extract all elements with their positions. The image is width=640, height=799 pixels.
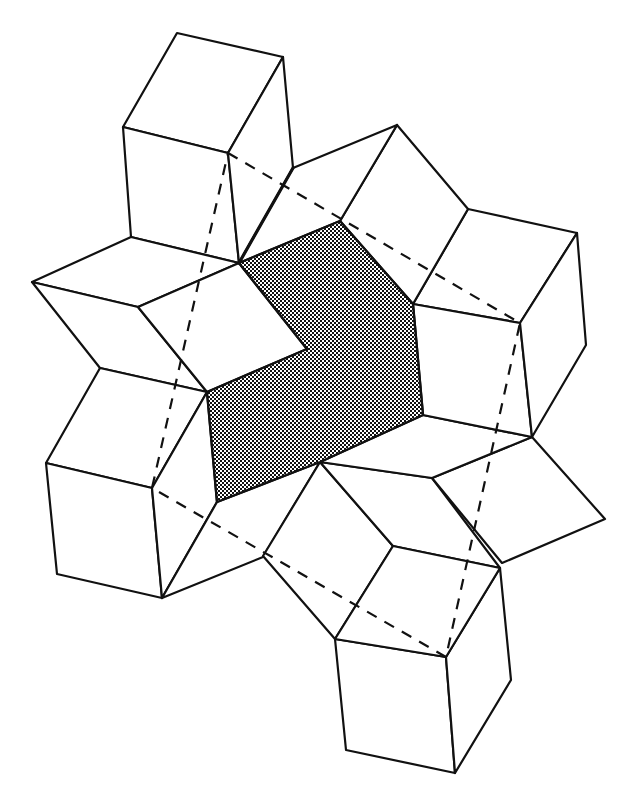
tiling-diagram	[0, 0, 640, 799]
diagram-canvas	[0, 0, 640, 799]
right-cube-left-face	[413, 304, 532, 437]
bottom-cube-left-face	[335, 639, 455, 773]
